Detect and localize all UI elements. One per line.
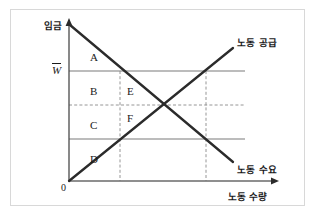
region-label-e: E <box>127 86 134 97</box>
wage-floor-label: W <box>52 63 61 76</box>
origin-label: 0 <box>61 183 66 193</box>
region-label-d: D <box>90 154 98 165</box>
y-axis-label: 임금 <box>44 21 62 31</box>
region-label-f: F <box>127 113 133 124</box>
region-label-a: A <box>90 52 98 63</box>
region-label-b: B <box>90 86 97 97</box>
wage-floor-symbol: W <box>52 63 61 76</box>
region-label-c: C <box>90 120 97 131</box>
x-axis-label: 노동 수량 <box>228 192 267 202</box>
economics-diagram: 임금 노동 수량 노동 공급 노동 수요 0 W A B C D E F <box>0 0 322 221</box>
chart-canvas <box>0 0 322 221</box>
supply-curve-label: 노동 공급 <box>237 38 277 48</box>
demand-curve-label: 노동 수요 <box>237 165 277 175</box>
x-axis-arrow-icon <box>271 178 279 185</box>
